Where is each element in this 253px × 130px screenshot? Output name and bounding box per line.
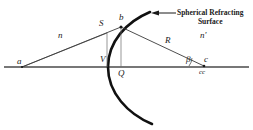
callout-spherical-refracting-surface: Spherical Refracting Surface: [177, 8, 243, 26]
label-point-S: S: [99, 19, 104, 28]
point-marker-a: [21, 66, 23, 68]
spherical-refracting-surface-arc: [108, 12, 152, 124]
label-index-n: n: [58, 31, 63, 40]
label-point-b: b: [119, 13, 124, 22]
label-center-point-c: c: [204, 55, 208, 64]
callout-line-1: Spherical Refracting: [177, 8, 243, 17]
label-center-subscript-cc: cc: [199, 69, 205, 76]
optics-diagram: a n S b V Q R n' β c cc Spherical Refrac…: [0, 0, 253, 130]
callout-arrow-icon: [151, 10, 159, 15]
construction-ray-aS: [22, 33, 107, 67]
label-index-n-prime: n': [200, 31, 206, 40]
label-vertex-V: V: [100, 55, 106, 64]
label-angle-beta: β: [186, 55, 190, 64]
label-radius-R: R: [165, 36, 171, 45]
callout-line-2: Surface: [177, 17, 243, 26]
point-marker-c: [203, 65, 206, 68]
label-object-point-a: a: [17, 57, 22, 66]
label-point-Q: Q: [118, 69, 125, 78]
point-marker-b: [120, 26, 123, 29]
